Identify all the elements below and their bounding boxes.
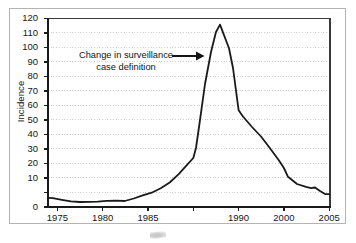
xtick-label-1980: 1980 (83, 213, 123, 223)
ytick-label-110: 110 (12, 28, 38, 38)
ytick-label-120: 120 (12, 13, 38, 23)
ytick-label-30: 30 (12, 144, 38, 154)
annotation-line-2: case definition (61, 62, 191, 74)
xtick-label-2005: 2005 (309, 213, 349, 223)
ytick-label-90: 90 (12, 57, 38, 67)
ytick-label-40: 40 (12, 129, 38, 139)
ytick-label-0: 0 (12, 202, 38, 212)
figure-container: Incidence 120 110 100 90 80 70 60 50 40 … (0, 0, 356, 243)
ytick-label-50: 50 (12, 115, 38, 125)
chart-plot-canvas (0, 0, 356, 243)
annotation-line-1: Change in surveillance (61, 50, 191, 62)
xtick-label-1975: 1975 (37, 213, 77, 223)
ytick-label-10: 10 (12, 173, 38, 183)
xtick-label-1985: 1985 (128, 213, 168, 223)
xtick-label-1990: 1990 (219, 213, 259, 223)
xtick-label-2000: 2000 (264, 213, 304, 223)
ytick-label-100: 100 (12, 42, 38, 52)
scan-artifact-smudge (150, 231, 166, 239)
ytick-label-80: 80 (12, 71, 38, 81)
ytick-label-20: 20 (12, 158, 38, 168)
ytick-label-60: 60 (12, 100, 38, 110)
ytick-label-70: 70 (12, 86, 38, 96)
